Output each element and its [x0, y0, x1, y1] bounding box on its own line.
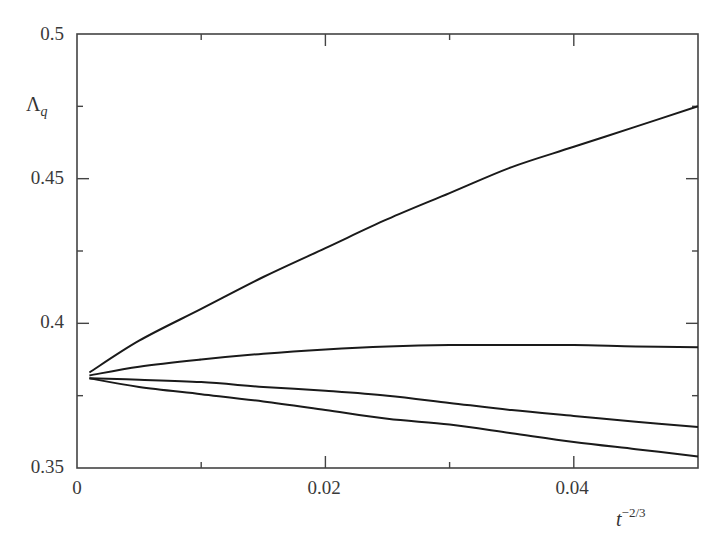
axis-ticks [77, 34, 698, 468]
x-axis-label: t−2/3 [616, 505, 646, 531]
series-line-curve-4 [89, 378, 698, 456]
y-tick-label-0.45: 0.45 [4, 167, 64, 189]
y-tick-label-0.5: 0.5 [4, 23, 64, 45]
y-axis-label: Λq [26, 93, 48, 120]
plot-frame [77, 34, 698, 468]
series-line-curve-2 [89, 345, 698, 375]
line-chart [0, 0, 721, 551]
x-tick-label-0.02: 0.02 [289, 477, 359, 499]
y-tick-label-0.35: 0.35 [4, 456, 64, 478]
y-tick-label-0.4: 0.4 [4, 311, 64, 333]
x-tick-label-0: 0 [42, 477, 112, 499]
series-line-curve-1 [89, 106, 698, 372]
x-tick-label-0.04: 0.04 [537, 477, 607, 499]
data-lines [89, 106, 698, 456]
